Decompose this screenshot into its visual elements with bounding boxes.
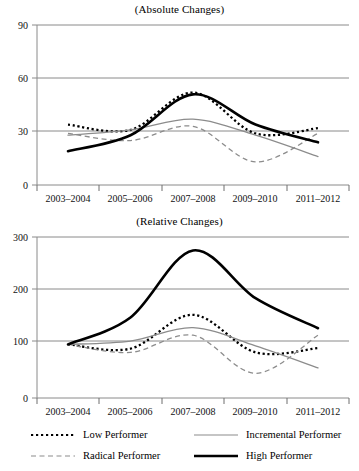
y-tick-relative-300: 300: [13, 232, 28, 243]
x-ticks-absolute: [37, 185, 349, 191]
absolute-svg: 90 60 30 0 2003–2004 2005–2006 2007–2008: [0, 0, 359, 208]
series-group-relative: [68, 250, 318, 373]
relative-svg: 300 200 100 0 2003–2004 2005–2006 2007–2…: [0, 212, 359, 420]
legend-label-radical-performer: Radical Performer: [83, 450, 160, 462]
figure-root: (Absolute Changes): [0, 0, 359, 471]
y-tick-absolute-0: 0: [23, 180, 28, 191]
y-tick-absolute-90: 90: [18, 20, 28, 31]
chart-legend: Low Performer Radical Performer Incremen: [0, 424, 359, 470]
y-tick-absolute-30: 30: [18, 126, 28, 137]
y-tick-absolute-60: 60: [18, 73, 28, 84]
x-ticks-relative: [37, 398, 349, 404]
series-line-low-performer: [68, 315, 318, 354]
x-tick-relative-2: 2007–2008: [171, 406, 216, 417]
low-performer-key-icon: [30, 429, 76, 441]
incremental-performer-key-icon: [193, 429, 239, 441]
series-line-incremental-performer: [68, 119, 318, 156]
y-ticks-relative: [32, 237, 37, 398]
x-tick-absolute-1: 2005–2006: [108, 193, 153, 204]
gridlines-absolute: [37, 25, 349, 185]
legend-item-low-performer: Low Performer: [30, 424, 160, 445]
legend-column-right: Incremental Performer High Performer: [193, 424, 341, 466]
chart-absolute-changes: (Absolute Changes): [0, 0, 359, 208]
x-tick-absolute-4: 2011–2012: [296, 193, 341, 204]
x-tick-absolute-0: 2003–2004: [46, 193, 91, 204]
series-line-low-performer: [68, 93, 318, 136]
legend-item-high-performer: High Performer: [193, 445, 341, 466]
chart-absolute-plot: 90 60 30 0 2003–2004 2005–2006 2007–2008: [0, 0, 359, 212]
series-line-high-performer: [68, 250, 318, 344]
legend-label-high-performer: High Performer: [246, 450, 312, 462]
chart-relative-plot: 300 200 100 0 2003–2004 2005–2006 2007–2…: [0, 212, 359, 424]
x-tick-relative-3: 2009–2010: [233, 406, 278, 417]
x-tick-relative-1: 2005–2006: [108, 406, 153, 417]
y-tick-relative-0: 0: [23, 393, 28, 404]
x-tick-absolute-2: 2007–2008: [171, 193, 216, 204]
y-tick-relative-100: 100: [13, 336, 28, 347]
x-tick-relative-0: 2003–2004: [46, 406, 91, 417]
gridlines-relative: [37, 237, 349, 398]
radical-performer-key-icon: [30, 450, 76, 462]
y-ticks-absolute: [32, 25, 37, 185]
y-tick-relative-200: 200: [13, 284, 28, 295]
series-group-absolute: [68, 93, 318, 162]
legend-item-radical-performer: Radical Performer: [30, 445, 160, 466]
legend-label-incremental-performer: Incremental Performer: [246, 429, 341, 441]
chart-relative-changes: (Relative Changes) 300 200 100: [0, 212, 359, 420]
legend-label-low-performer: Low Performer: [83, 429, 147, 441]
legend-item-incremental-performer: Incremental Performer: [193, 424, 341, 445]
x-tick-absolute-3: 2009–2010: [233, 193, 278, 204]
high-performer-key-icon: [193, 450, 239, 462]
series-line-high-performer: [68, 94, 318, 151]
legend-column-left: Low Performer Radical Performer: [30, 424, 160, 466]
series-line-incremental-performer: [68, 328, 318, 368]
x-tick-relative-4: 2011–2012: [296, 406, 341, 417]
